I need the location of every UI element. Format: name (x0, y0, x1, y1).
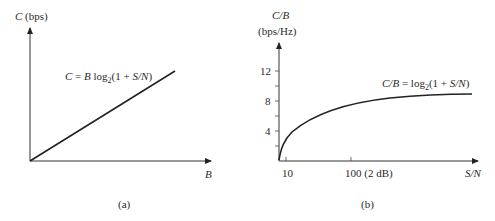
panel-b-capacity-curve (279, 94, 472, 160)
panel-a-y-axis-label: C (bps) (15, 10, 48, 23)
panel-b-formula: C/B = log2(1 + S/N) (382, 77, 470, 92)
shannon-capacity-figure: C (bps) C = B log2(1 + S/N) B (a) 12 8 4… (0, 0, 495, 221)
panel-b-x-tick-10: 10 (282, 167, 294, 179)
panel-b-y-ticks (275, 71, 279, 146)
panel-b-x-axis-label: S/N (465, 167, 482, 179)
panel-a-capacity-line (30, 71, 175, 161)
panel-a-formula: C = B log2(1 + S/N) (65, 70, 152, 85)
panel-b-y-axis-label-line2: (bps/Hz) (258, 25, 297, 38)
panel-b: 12 8 4 10 100 (2 dB) C/B (bps/Hz) C/B = … (258, 9, 482, 211)
panel-b-y-tick-4: 4 (265, 125, 271, 137)
panel-b-y-tick-8: 8 (265, 95, 271, 107)
panel-b-caption: (b) (361, 198, 374, 211)
panel-b-x-ticks (286, 157, 351, 161)
panel-a: C (bps) C = B log2(1 + S/N) B (a) (15, 10, 212, 211)
panel-b-y-tick-12: 12 (260, 65, 271, 77)
panel-a-x-axis-label: B (205, 168, 212, 180)
panel-b-x-tick-100: 100 (2 dB) (345, 167, 393, 180)
panel-a-caption: (a) (118, 198, 131, 211)
panel-b-y-axis-label-line1: C/B (272, 9, 289, 21)
